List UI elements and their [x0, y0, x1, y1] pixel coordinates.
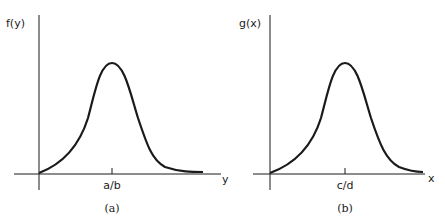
tick-label: c/d	[337, 179, 354, 192]
panel-caption: (a)	[104, 202, 119, 215]
y-axis-label: f(y)	[6, 17, 25, 30]
figure: f(y) y a/b (a) g(x) x c/d (b)	[0, 0, 445, 224]
panel-caption: (b)	[337, 202, 353, 215]
x-axis-label: y	[222, 173, 229, 186]
panel-b: g(x) x c/d (b)	[239, 15, 435, 215]
panel-a: f(y) y a/b (a)	[6, 15, 229, 215]
x-axis-label: x	[428, 172, 435, 185]
density-curve	[39, 63, 203, 173]
density-curve	[270, 63, 423, 173]
tick-label: a/b	[103, 179, 120, 192]
y-axis-label: g(x)	[239, 17, 261, 30]
